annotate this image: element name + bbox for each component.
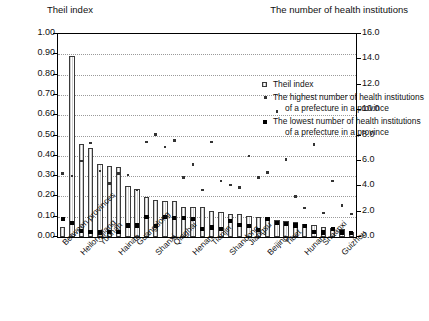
lowest-marker xyxy=(312,230,316,234)
left-axis-tick-0.70: 0.70 xyxy=(15,88,55,98)
right-axis-tick-2.0: 2.0 xyxy=(362,205,402,215)
left-axis-tickmark xyxy=(53,155,57,156)
highest-marker xyxy=(145,141,148,144)
lowest-marker xyxy=(284,222,288,226)
highest-marker xyxy=(71,175,74,178)
bar xyxy=(134,189,139,237)
left-axis-tickmark xyxy=(53,114,57,115)
lowest-marker xyxy=(126,223,130,227)
highest-marker xyxy=(294,195,297,198)
right-axis-tick-4.0: 4.0 xyxy=(362,179,402,189)
right-axis-tick-0.0: 0.0 xyxy=(362,230,402,240)
left-axis-tick-0.80: 0.80 xyxy=(15,68,55,78)
highest-marker xyxy=(154,133,157,136)
left-axis-tickmark xyxy=(53,53,57,54)
left-axis-tick-0.20: 0.20 xyxy=(15,189,55,199)
lowest-marker xyxy=(172,216,176,220)
lowest-marker xyxy=(275,221,279,225)
highest-marker xyxy=(220,180,223,183)
highest-marker xyxy=(303,207,306,210)
right-axis-tickmark xyxy=(357,236,361,237)
left-axis-tick-0.00: 0.00 xyxy=(15,230,55,240)
left-axis-tick-0.90: 0.90 xyxy=(15,47,55,57)
right-axis-tick-8.0: 8.0 xyxy=(362,129,402,139)
highest-marker xyxy=(313,143,316,146)
highest-marker xyxy=(331,180,334,183)
right-axis-tick-12.0: 12.0 xyxy=(362,78,402,88)
legend-label-theil-index: Theil index xyxy=(273,79,314,89)
left-axis-tickmark xyxy=(53,236,57,237)
highest-marker xyxy=(80,160,83,163)
highest-marker xyxy=(238,186,241,189)
left-axis-tick-0.10: 0.10 xyxy=(15,210,55,220)
lowest-marker xyxy=(200,227,204,231)
right-axis-tick-16.0: 16.0 xyxy=(362,27,402,37)
highest-marker xyxy=(192,163,195,166)
legend-label-lowest-line2: of a prefecture in a province xyxy=(273,127,429,138)
right-axis-title: The number of health institutions xyxy=(270,4,408,15)
left-axis-tick-0.30: 0.30 xyxy=(15,169,55,179)
right-axis-tickmark xyxy=(357,58,361,59)
left-axis-tick-1.00: 1.00 xyxy=(15,27,55,37)
bar xyxy=(209,211,214,237)
left-axis-tickmark xyxy=(53,195,57,196)
legend-item-highest: The highest number of health institution… xyxy=(261,92,429,114)
right-axis-tickmark xyxy=(357,84,361,85)
highest-marker xyxy=(322,212,325,215)
highest-marker xyxy=(117,172,120,175)
lowest-marker xyxy=(237,223,241,227)
left-axis-tickmark xyxy=(53,94,57,95)
right-axis-tickmark xyxy=(357,160,361,161)
right-axis-tickmark xyxy=(357,211,361,212)
chart-legend: Theil index The highest number of health… xyxy=(261,79,429,140)
bar xyxy=(200,207,205,237)
highest-marker xyxy=(285,158,288,161)
left-axis-title: Theil index xyxy=(47,4,93,15)
legend-label-highest-line2: of a prefecture in a province xyxy=(273,103,429,114)
left-axis-tickmark xyxy=(53,33,57,34)
small-dot-icon xyxy=(264,96,267,99)
right-axis-tickmark xyxy=(357,33,361,34)
highest-marker xyxy=(341,204,344,207)
highest-marker xyxy=(108,182,111,185)
legend-label-highest: The highest number of health institution… xyxy=(273,92,424,102)
large-dot-icon xyxy=(263,120,267,124)
highest-marker xyxy=(61,172,64,175)
left-axis-tickmark xyxy=(53,216,57,217)
lowest-marker xyxy=(182,216,186,220)
left-axis-tickmark xyxy=(53,135,57,136)
legend-item-lowest: The lowest number of health institutions… xyxy=(261,116,429,138)
lowest-marker xyxy=(135,223,139,227)
lowest-marker xyxy=(210,225,214,229)
bar xyxy=(125,186,130,237)
left-axis-tick-0.50: 0.50 xyxy=(15,129,55,139)
legend-label-lowest: The lowest number of health institutions xyxy=(273,116,421,126)
highest-marker xyxy=(248,155,251,158)
right-axis-tick-6.0: 6.0 xyxy=(362,154,402,164)
x-axis-tick-labels: Between provincesHeilongjiangYunnanHaina… xyxy=(0,238,416,321)
highest-marker xyxy=(182,176,185,179)
highest-marker xyxy=(173,139,176,142)
left-axis-tick-0.40: 0.40 xyxy=(15,149,55,159)
highest-marker xyxy=(350,213,353,216)
highest-marker xyxy=(257,176,260,179)
lowest-marker xyxy=(303,224,307,228)
highest-marker xyxy=(201,189,204,192)
left-axis-tick-0.60: 0.60 xyxy=(15,108,55,118)
right-axis-tickmark xyxy=(357,185,361,186)
highest-marker xyxy=(266,171,269,174)
highest-marker xyxy=(136,189,139,192)
highest-marker xyxy=(99,170,102,173)
left-axis-tickmark xyxy=(53,74,57,75)
bar xyxy=(69,56,74,237)
lowest-marker xyxy=(70,221,74,225)
legend-item-theil-index: Theil index xyxy=(261,79,429,90)
bar-swatch-icon xyxy=(262,82,267,87)
highest-marker xyxy=(89,142,92,145)
lowest-marker xyxy=(61,217,65,221)
highest-marker xyxy=(210,141,213,144)
right-axis-tick-10.0: 10.0 xyxy=(362,103,402,113)
lowest-marker xyxy=(88,230,92,234)
right-axis-tick-14.0: 14.0 xyxy=(362,52,402,62)
